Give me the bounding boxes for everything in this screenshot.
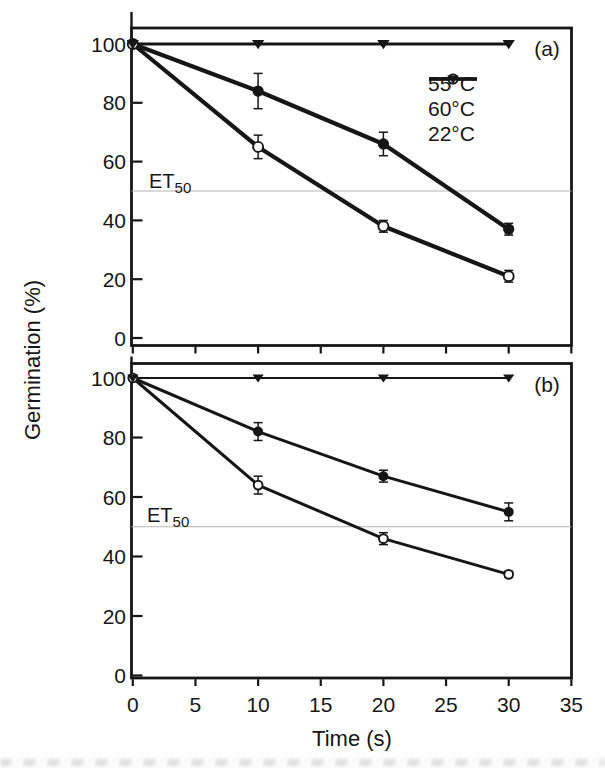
panel-b-y-tick-label-60: 60 xyxy=(103,486,126,509)
panel-b-data-point-60°C-t10 xyxy=(254,481,263,490)
panel-a-frame xyxy=(132,28,572,346)
et50-text: ET xyxy=(147,504,173,526)
et50-subscript: 50 xyxy=(175,179,192,196)
panel-a-y-tick-label-20: 20 xyxy=(103,268,126,291)
legend-item-22c: 22°C xyxy=(428,121,475,146)
panel-a-y-tick-label-100: 100 xyxy=(91,33,126,56)
x-axis-title: Time (s) xyxy=(252,726,452,752)
legend-label: 60°C xyxy=(428,98,475,119)
panel-b-y-tick-label-0: 0 xyxy=(114,664,126,687)
panel-a-data-point-55°C-t20 xyxy=(378,138,389,149)
panel-a-data-point-60°C-t10 xyxy=(253,142,263,152)
x-tick-label-0: 0 xyxy=(127,693,139,716)
panel-a-label: (a) xyxy=(527,37,567,61)
panel-a-y-tick-label-40: 40 xyxy=(103,209,126,232)
et50-label-panel-a: ET50 xyxy=(149,170,191,196)
legend-label: 22°C xyxy=(428,123,475,144)
x-tick-label-15: 15 xyxy=(309,693,332,716)
x-tick-label-20: 20 xyxy=(372,693,395,716)
panel-b-data-point-60°C-t30 xyxy=(504,570,513,579)
germination-figure: 02040608010002040608010005101520253035 G… xyxy=(0,0,605,768)
panel-b-data-point-60°C-t20 xyxy=(379,534,388,543)
x-tick-label-25: 25 xyxy=(434,693,457,716)
panel-a-data-point-55°C-t10 xyxy=(253,85,264,96)
panel-b-series-line-60°C xyxy=(133,378,509,574)
panel-b-y-tick-label-100: 100 xyxy=(91,367,126,390)
panel-b-y-tick-label-20: 20 xyxy=(103,605,126,628)
panel-a-y-tick-label-80: 80 xyxy=(103,91,126,114)
scan-artifact xyxy=(0,759,605,766)
x-tick-label-10: 10 xyxy=(246,693,269,716)
panel-b-data-point-55°C-t20 xyxy=(378,471,388,481)
panel-b-y-tick-label-40: 40 xyxy=(103,545,126,568)
legend: 55°C 60°C 22°C xyxy=(428,71,475,146)
panel-a-data-point-60°C-t30 xyxy=(504,271,514,281)
et50-text: ET xyxy=(149,170,175,192)
panel-a-y-tick-label-60: 60 xyxy=(103,150,126,173)
panel-b-data-point-55°C-t10 xyxy=(253,427,263,437)
y-axis-title: Germination (%) xyxy=(20,210,42,510)
x-tick-label-35: 35 xyxy=(560,693,583,716)
et50-label-panel-b: ET50 xyxy=(147,504,189,530)
panel-a-data-point-55°C-t30 xyxy=(503,224,514,235)
panel-b-series-line-55°C xyxy=(133,378,509,512)
germination-chart: 02040608010002040608010005101520253035 xyxy=(0,0,605,768)
panel-b-y-tick-label-80: 80 xyxy=(103,426,126,449)
panel-a-y-tick-label-0: 0 xyxy=(114,327,126,350)
panel-b-label: (b) xyxy=(527,373,567,397)
legend-marker-filled-triangle-icon xyxy=(428,71,478,87)
panel-b-data-point-55°C-t30 xyxy=(504,507,514,517)
x-tick-label-5: 5 xyxy=(190,693,202,716)
panel-a-data-point-60°C-t20 xyxy=(378,221,388,231)
et50-subscript: 50 xyxy=(173,513,190,530)
x-tick-label-30: 30 xyxy=(497,693,520,716)
legend-item-60c: 60°C xyxy=(428,96,475,121)
panel-b: 02040608010005101520253035 xyxy=(91,357,583,717)
